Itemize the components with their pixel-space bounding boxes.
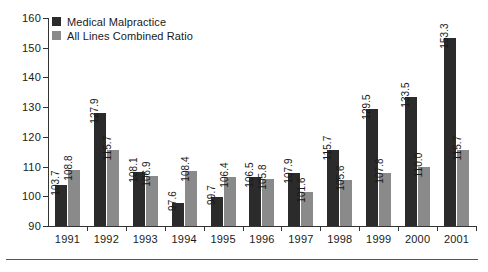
bar-group: 153.3115.7 (437, 18, 476, 226)
bar-value-label: 107.8 (375, 158, 385, 184)
x-axis-tick-mark (165, 226, 166, 231)
x-axis-tick-label: 1992 (94, 233, 119, 245)
bar-value-label: 97.6 (168, 191, 178, 211)
bar-group-bars: 133.5110.0 (398, 18, 437, 226)
y-axis-tick-label: 90 (28, 220, 41, 232)
x-axis-tick-label: 1997 (288, 233, 313, 245)
bar[interactable]: 106.9 (146, 176, 158, 226)
bar-value-label: 107.9 (284, 158, 294, 184)
y-axis-tick-label: 100 (22, 190, 41, 202)
bar-group: 103.7108.8 (48, 18, 87, 226)
bar-group-bars: 97.6108.4 (165, 18, 204, 226)
x-axis-tick-label: 1996 (249, 233, 274, 245)
bar-value-label: 106.4 (220, 163, 230, 189)
bar[interactable]: 108.8 (68, 170, 80, 226)
x-axis-tick-mark (437, 226, 438, 231)
x-axis-tick-mark (281, 226, 282, 231)
bar-value-label: 106.9 (142, 161, 152, 187)
x-axis-tick-label: 2000 (405, 233, 430, 245)
bar-fill (457, 150, 469, 226)
bar-value-label: 129.5 (362, 94, 372, 120)
bar-group-bars: 127.9115.7 (87, 18, 126, 226)
x-axis-tick-label: 2001 (444, 233, 469, 245)
bar[interactable]: 127.9 (94, 113, 106, 226)
bar-group: 115.7105.6 (320, 18, 359, 226)
legend-item-all-lines-combined-ratio: All Lines Combined Ratio (52, 29, 193, 42)
bar[interactable]: 106.4 (224, 177, 236, 226)
bar[interactable]: 97.6 (172, 203, 184, 226)
bar[interactable]: 103.7 (55, 185, 67, 226)
x-axis-tick-mark (126, 226, 127, 231)
bar-value-label: 105.8 (258, 164, 268, 190)
bar[interactable]: 105.6 (340, 180, 352, 226)
y-axis-tick-label: 150 (22, 42, 41, 54)
bar-value-label: 108.1 (129, 157, 139, 183)
chart-legend: Medical Malpractice All Lines Combined R… (52, 15, 193, 43)
y-axis-tick-mark (43, 226, 48, 227)
bar[interactable]: 105.8 (262, 179, 274, 226)
bar-value-label: 108.8 (64, 155, 74, 181)
bar-value-label: 115.7 (103, 135, 113, 160)
bar-value-label: 108.4 (181, 157, 191, 183)
bar-value-label: 101.6 (297, 177, 307, 203)
plot-area: 90100110120130140150160 103.7108.8127.91… (48, 18, 476, 226)
bar-chart-figure: 90100110120130140150160 103.7108.8127.91… (0, 0, 488, 272)
bar-group-bars: 153.3115.7 (437, 18, 476, 226)
legend-item-label: Medical Malpractice (67, 16, 166, 28)
legend-item-label: All Lines Combined Ratio (67, 30, 193, 42)
bar-group-bars: 115.7105.6 (320, 18, 359, 226)
bar-group: 99.7106.4 (204, 18, 243, 226)
x-axis-tick-mark (476, 226, 477, 231)
bar[interactable]: 115.7 (107, 150, 119, 226)
x-axis-tick-mark (320, 226, 321, 231)
y-axis-tick-label: 140 (22, 71, 41, 83)
bar-group-bars: 99.7106.4 (204, 18, 243, 226)
x-axis-tick-label: 1991 (55, 233, 80, 245)
x-axis-tick-label: 1995 (210, 233, 235, 245)
bar-fill (107, 150, 119, 226)
bar[interactable]: 108.4 (185, 171, 197, 226)
legend-item-medical-malpractice: Medical Malpractice (52, 15, 193, 28)
bar-value-label: 99.7 (207, 185, 217, 205)
x-axis-tick-label: 1994 (172, 233, 197, 245)
y-axis-tick-label: 110 (23, 161, 41, 173)
bar[interactable]: 99.7 (211, 197, 223, 226)
bar-group-bars: 129.5107.8 (359, 18, 398, 226)
x-axis-tick-mark (87, 226, 88, 231)
bar-fill (94, 113, 106, 226)
bar[interactable]: 115.7 (457, 150, 469, 226)
bar[interactable]: 110.0 (418, 167, 430, 226)
bar-group-bars: 103.7108.8 (48, 18, 87, 226)
bar-group: 133.5110.0 (398, 18, 437, 226)
bar-group: 108.1106.9 (126, 18, 165, 226)
bar[interactable]: 101.6 (301, 192, 313, 226)
bar-group: 127.9115.7 (87, 18, 126, 226)
bar-group-bars: 107.9101.6 (281, 18, 320, 226)
bar[interactable]: 107.8 (379, 173, 391, 226)
x-axis-tick-mark (359, 226, 360, 231)
bar-value-label: 115.7 (323, 135, 333, 160)
footer-divider (6, 259, 478, 260)
x-axis-tick-label: 1998 (327, 233, 352, 245)
bar-value-label: 127.9 (90, 99, 100, 125)
y-axis-tick-label: 120 (22, 131, 41, 143)
bar-group: 106.5105.8 (243, 18, 282, 226)
x-axis-tick-mark (204, 226, 205, 231)
bar-group: 129.5107.8 (359, 18, 398, 226)
bar-value-label: 115.7 (453, 135, 463, 160)
x-axis-tick-label: 1999 (366, 233, 391, 245)
bar[interactable]: 153.3 (444, 38, 456, 226)
bar-value-label: 105.6 (336, 165, 346, 191)
bar-group: 97.6108.4 (165, 18, 204, 226)
y-axis-tick-label: 160 (22, 12, 41, 24)
x-axis-spine (48, 226, 476, 227)
bar-group-bars: 108.1106.9 (126, 18, 165, 226)
bar-value-label: 110.0 (414, 152, 424, 177)
legend-swatch-icon (52, 17, 61, 26)
x-axis-tick-mark (243, 226, 244, 231)
bar-value-label: 103.7 (51, 171, 61, 197)
legend-swatch-icon (52, 31, 61, 40)
bar-value-label: 153.3 (440, 23, 450, 49)
x-axis-tick-mark (398, 226, 399, 231)
bar-group: 107.9101.6 (281, 18, 320, 226)
